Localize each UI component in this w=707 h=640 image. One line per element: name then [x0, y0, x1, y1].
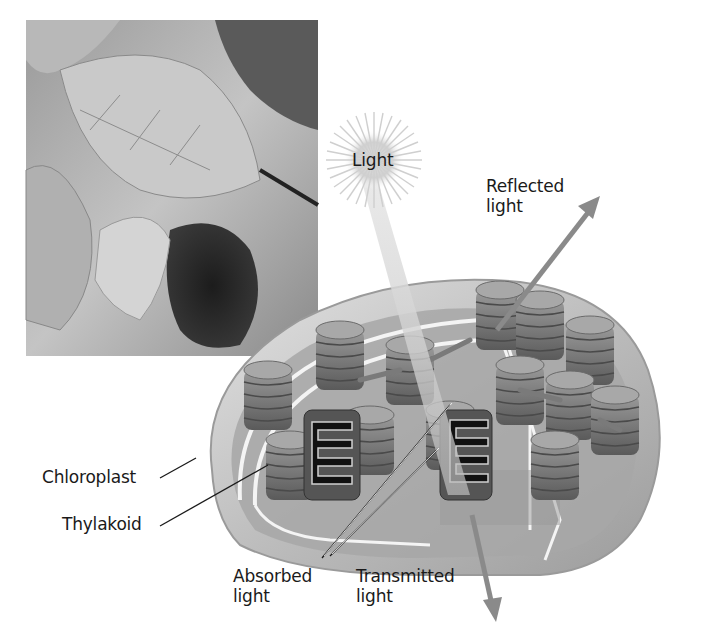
reflected-line2: light — [486, 196, 564, 216]
absorbed-line2: light — [233, 586, 312, 606]
absorbed-light-label: Absorbed light — [233, 566, 312, 606]
transmitted-line2: light — [356, 586, 455, 606]
chloroplast-label: Chloroplast — [42, 467, 136, 487]
transmitted-light-label: Transmitted light — [356, 566, 455, 606]
transmitted-line1: Transmitted — [356, 566, 455, 586]
light-label: Light — [352, 150, 393, 170]
chloroplast-light-diagram: Light Reflected light Chloroplast Thylak… — [0, 0, 707, 640]
chloroplast-leader — [160, 458, 196, 478]
reflected-light-label: Reflected light — [486, 176, 564, 216]
diagram-canvas — [0, 0, 707, 640]
reflected-line1: Reflected — [486, 176, 564, 196]
thylakoid-label: Thylakoid — [62, 514, 142, 534]
leaf-photo — [26, 20, 318, 356]
absorbed-line1: Absorbed — [233, 566, 312, 586]
